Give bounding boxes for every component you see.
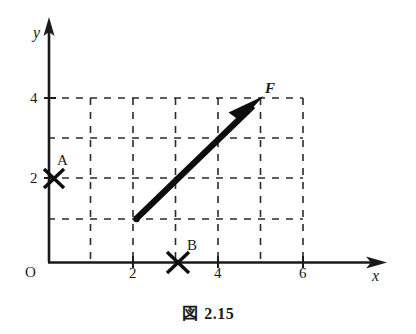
x-tick-label-4: 4: [214, 266, 222, 281]
y-tick-label-2: 2: [30, 171, 38, 186]
vector-F-label: F: [265, 81, 275, 96]
figure-2-15: y x O 4 2 2 4 6 A B F 図 2.15: [0, 0, 416, 334]
vector-F-tail-cap: [133, 216, 140, 223]
y-tick-label-4: 4: [30, 91, 38, 106]
vector-F: [133, 96, 263, 222]
caption-number: 2.15: [204, 305, 234, 322]
y-axis-label: y: [33, 25, 40, 41]
caption-kanji: 図: [182, 304, 199, 323]
y-axis: [44, 17, 55, 262]
figure-caption: 図 2.15: [0, 300, 416, 324]
vector-F-shaft: [136, 106, 253, 219]
x-tick-label-2: 2: [129, 266, 137, 281]
mark-A-label: A: [57, 153, 68, 168]
mark-B-label: B: [187, 238, 197, 253]
x-axis-label: x: [372, 268, 379, 284]
origin-label: O: [25, 265, 36, 280]
x-tick-label-6: 6: [299, 266, 307, 281]
